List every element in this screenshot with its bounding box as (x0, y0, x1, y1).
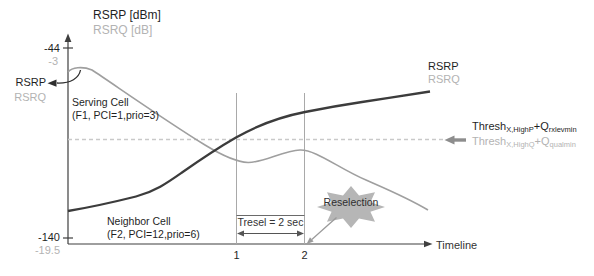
serving-cell-curve (68, 68, 428, 210)
serving-cell-label-line2: (F1, PCI=1,prio=3) (72, 110, 159, 122)
x-tick-1: 1 (229, 249, 244, 261)
rsrp-rsrq-pointer-arrow-icon (48, 80, 57, 87)
neighbor-cell-label-line2: (F2, PCI=12,prio=6) (107, 229, 200, 241)
reselection-label: Reselection (316, 197, 386, 209)
y-tick-rsrq-top: -3 (28, 55, 58, 67)
tresel-arrow-left-icon (237, 231, 244, 237)
neighbor-cell-label-line1: Neighbor Cell (107, 216, 171, 228)
threshold-rsrq-sub1: X,HighQ (506, 140, 534, 149)
threshold-rsrp-sub2: rxlevmin (549, 125, 577, 134)
threshold-rsrp-base: Thresh (472, 120, 506, 132)
threshold-rsrp-sub1: X,HighP (506, 125, 534, 134)
pointer-label-rsrq: RSRQ (4, 91, 46, 103)
x-axis-arrow-icon (424, 241, 433, 247)
threshold-label-rsrq: ThreshX,HighQ+Qqualmin (472, 135, 576, 149)
pointer-label-rsrp: RSRP (4, 76, 46, 88)
reselection-arrow-shaft (312, 218, 337, 240)
y-tick-rsrp-top: -44 (30, 42, 60, 54)
threshold-rsrq-sub2: qualmin (550, 140, 576, 149)
curve-label-rsrq: RSRQ (428, 73, 460, 85)
y-axis-title-rsrp: RSRP [dBm] (93, 9, 161, 22)
cell-reselection-diagram: RSRP [dBm] RSRQ [dB] -44 -3 RSRP RSRQ Se… (0, 0, 594, 276)
serving-cell-label-line1: Serving Cell (72, 97, 129, 109)
threshold-label-rsrp: ThreshX,HighP+Qrxlevmin (472, 120, 577, 134)
y-axis-title-rsrq: RSRQ [dB] (93, 24, 152, 37)
threshold-rsrq-plus: +Q (535, 135, 550, 147)
x-axis-label: Timeline (436, 239, 477, 251)
y-tick-rsrq-bottom: -19.5 (26, 244, 60, 256)
threshold-arrow-icon (445, 136, 455, 145)
curve-label-rsrp: RSRP (428, 60, 459, 72)
tresel-arrow-right-icon (297, 231, 304, 237)
threshold-rsrp-plus: +Q (534, 120, 549, 132)
x-tick-2: 2 (297, 249, 312, 261)
threshold-rsrq-base: Thresh (472, 135, 506, 147)
y-axis-arrow-icon (65, 34, 72, 43)
tresel-label: Tresel = 2 sec (236, 217, 305, 229)
y-tick-rsrp-bottom: -140 (28, 231, 60, 243)
